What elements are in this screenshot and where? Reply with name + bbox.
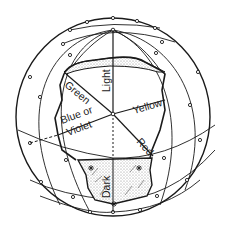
label-dark: Dark bbox=[100, 175, 112, 198]
color-sphere-diagram: Light Green Yellow Blue or Violet Red Da… bbox=[0, 0, 226, 228]
label-light: Light bbox=[100, 69, 112, 92]
sphere-figure: Light Green Yellow Blue or Violet Red Da… bbox=[0, 0, 226, 228]
top-rim-stipple bbox=[64, 57, 165, 74]
label-yellow: Yellow bbox=[131, 96, 164, 116]
label-green: Green bbox=[63, 78, 93, 106]
center-node bbox=[111, 112, 115, 116]
